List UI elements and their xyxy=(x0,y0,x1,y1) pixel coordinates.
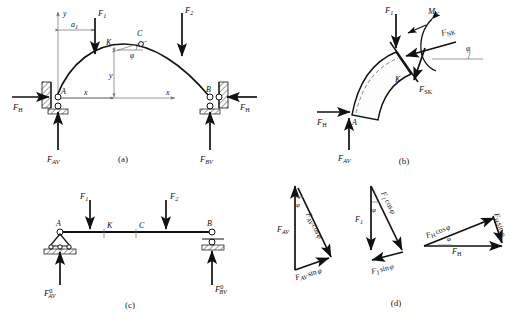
support-B-roller-node xyxy=(207,103,213,109)
shear-force-FSK-label: FSK xyxy=(418,84,433,95)
load-F2-label-c: F2 xyxy=(169,191,178,202)
support-A-roller-right-c xyxy=(67,245,71,249)
FH-angle-phi-label: φ xyxy=(447,235,451,243)
load-F1-label-c: F1 xyxy=(79,191,88,202)
F1-sin-component-arrow xyxy=(372,252,403,260)
dimension-a1-label: a1 xyxy=(71,20,78,30)
axis-x-label: x xyxy=(165,88,170,97)
arch-segment-body xyxy=(352,52,411,120)
support-B-node-c xyxy=(209,229,215,235)
reaction-FH-label-b: FH xyxy=(316,117,327,128)
support-A-roller-node xyxy=(55,103,61,109)
point-C-node xyxy=(139,42,144,47)
support-A-roller-left-c xyxy=(49,245,53,249)
panel-c: A B F1 F2 K C F0AV F0BV (c) xyxy=(43,191,228,310)
engineering-figure: y x a1 F1 F2 x y K φ C xyxy=(0,0,511,322)
point-K-label-c: K xyxy=(106,221,113,230)
point-B-label-c: B xyxy=(207,219,212,228)
figure-canvas: y x a1 F1 F2 x y K φ C xyxy=(0,0,511,322)
point-C-label-c: C xyxy=(139,221,145,230)
panel-d-caption: (d) xyxy=(391,298,402,308)
FH-main-label: FH xyxy=(451,247,462,257)
angle-phi-label-b: φ xyxy=(466,44,470,53)
reaction-FH-right-label: FH xyxy=(239,102,250,113)
force-triangle-FH: φ FH FHcosφ FHsinφ xyxy=(424,211,509,257)
moment-MK-label: MK xyxy=(427,6,440,17)
load-F2-label: F2 xyxy=(184,5,193,16)
reaction-A-label-c: F0AV xyxy=(43,287,57,299)
F1-sin-label: F1sinφ xyxy=(369,262,395,277)
FAV-angle-phi-label: φ xyxy=(296,201,300,209)
reaction-B-label-c: F0BV xyxy=(214,283,228,295)
angle-phi-label: φ xyxy=(130,51,134,60)
point-B-label: B xyxy=(206,85,211,94)
load-F1-label: F1 xyxy=(97,8,106,19)
coord-y-label: y xyxy=(108,71,113,80)
panel-c-caption: (c) xyxy=(125,300,135,310)
reaction-FH-left-label: FH xyxy=(12,102,23,113)
normal-force-FNK-arrow xyxy=(406,42,456,56)
reaction-FBV-label: FBV xyxy=(199,154,214,165)
F1-angle-phi-label: φ xyxy=(372,206,376,214)
panel-a-caption: (a) xyxy=(118,154,128,164)
panel-a: y x a1 F1 F2 x y K φ C xyxy=(12,5,257,165)
normal-force-FNK-label: FNK xyxy=(439,24,457,39)
support-A-wall-hatch xyxy=(42,82,51,108)
panel-d: φ FAV FAVcosφ FAVsinφ φ F1 F1cosφ F1sinφ… xyxy=(276,186,508,308)
support-A-roller-mid-c xyxy=(58,245,62,249)
force-triangle-FAV: φ FAV FAVcosφ FAVsinφ xyxy=(276,186,331,283)
support-B-roller-c xyxy=(209,239,215,245)
FAV-main-label: FAV xyxy=(276,225,290,235)
F1-cos-label: F1cosφ xyxy=(378,189,398,216)
reaction-FAV-label-b: FAV xyxy=(337,153,352,164)
panel-b: K F1 MK FNK φ FSK A FH FAV (b) xyxy=(316,5,483,166)
support-B-ground-c xyxy=(202,245,224,250)
load-F1-label-b: F1 xyxy=(384,5,393,16)
support-B-hinge-node xyxy=(207,94,213,100)
force-triangle-F1: φ F1 F1cosφ F1sinφ xyxy=(354,186,403,277)
point-C-label: C xyxy=(137,29,143,38)
point-A-label-c: A xyxy=(55,219,61,228)
F1-main-label: F1 xyxy=(354,215,363,225)
point-K-label-b: K xyxy=(394,75,401,84)
point-K-label: K xyxy=(105,38,112,47)
FAV-cos-label: FAVcosφ xyxy=(303,210,325,241)
coord-x-label: x xyxy=(83,88,88,97)
support-A-triangle-c xyxy=(50,234,70,246)
FH-sin-label: FHsinφ xyxy=(491,211,508,238)
panel-b-caption: (b) xyxy=(399,156,410,166)
point-A-label: A xyxy=(60,87,66,96)
reaction-FAV-label: FAV xyxy=(46,154,61,165)
phi-arc xyxy=(136,46,137,50)
support-B-link-node xyxy=(216,94,222,100)
point-A-label-b: A xyxy=(351,118,357,127)
axis-y-label: y xyxy=(62,9,67,18)
